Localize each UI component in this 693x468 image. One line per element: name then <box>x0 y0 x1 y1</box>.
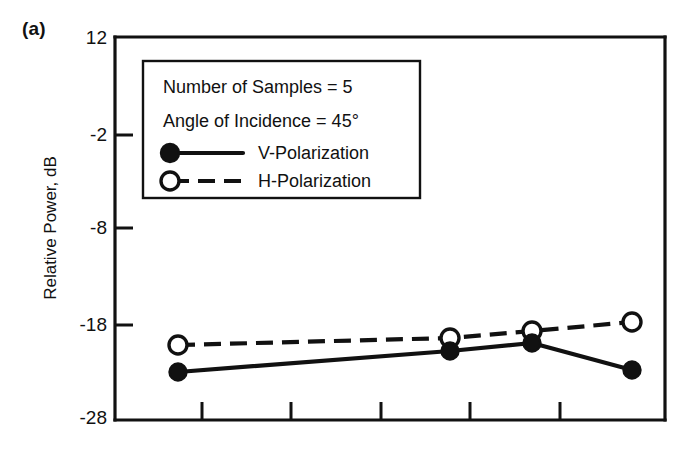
y-tick-label: -18 <box>80 314 107 335</box>
data-point <box>170 364 187 381</box>
y-tick-label: -2 <box>90 124 107 145</box>
data-point <box>623 313 641 331</box>
y-axis-tick-labels: 12 -2 -8 -18 -28 <box>80 27 107 428</box>
data-point <box>442 343 459 360</box>
legend-annotation-samples: Number of Samples = 5 <box>163 77 353 97</box>
legend-swatch-open-circle-icon <box>161 172 179 190</box>
y-axis-ticks <box>115 135 133 325</box>
chart-legend: Number of Samples = 5 Angle of Incidence… <box>143 61 420 198</box>
legend-annotation-angle: Angle of Incidence = 45° <box>163 111 359 131</box>
series-h-polarization <box>169 313 641 354</box>
legend-label-v-polarization: V-Polarization <box>258 143 369 163</box>
y-tick-label: 12 <box>86 27 107 48</box>
data-point <box>524 335 541 352</box>
legend-label-h-polarization: H-Polarization <box>258 171 371 191</box>
y-tick-label: -8 <box>90 217 107 238</box>
figure-panel: (a) Relative Power, dB 12 -2 -8 -18 -28 <box>0 0 693 468</box>
series-line-v-polarization <box>178 343 632 372</box>
series-line-h-polarization <box>178 322 632 345</box>
data-point <box>624 362 641 379</box>
y-tick-label: -28 <box>80 407 107 428</box>
legend-swatch-filled-circle-icon <box>161 144 179 162</box>
chart-plot-area: 12 -2 -8 -18 -28 <box>0 0 693 468</box>
data-point <box>169 336 187 354</box>
x-axis-ticks <box>202 402 560 420</box>
